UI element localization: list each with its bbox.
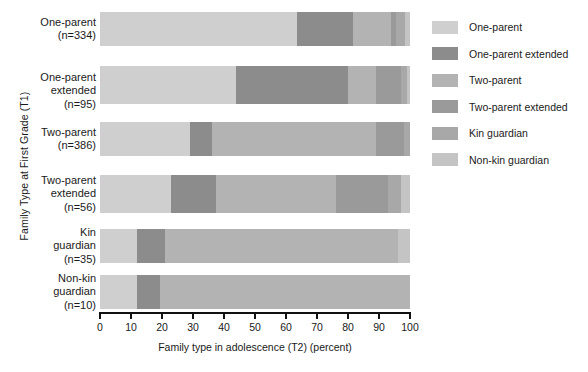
category-label: Kin guardian (n=35) bbox=[18, 226, 96, 266]
plot-area bbox=[100, 0, 410, 310]
x-axis-title: Family type in adolescence (T2) (percent… bbox=[100, 341, 410, 353]
x-axis-tick-label: 90 bbox=[364, 321, 394, 333]
x-axis-tick-label: 40 bbox=[209, 321, 239, 333]
bar-segment bbox=[405, 12, 410, 46]
bar-segment bbox=[100, 229, 137, 263]
bar-segment bbox=[100, 12, 297, 46]
legend-item[interactable]: Kin guardian bbox=[432, 120, 582, 147]
x-axis-tick bbox=[285, 312, 286, 319]
bar-segment bbox=[297, 12, 353, 46]
bar-segment bbox=[348, 66, 376, 104]
bar-row bbox=[100, 275, 410, 309]
x-axis-tick bbox=[254, 312, 255, 319]
legend: One-parent One-parent extendedTwo-parent… bbox=[432, 14, 582, 173]
legend-swatch bbox=[432, 127, 458, 140]
category-label-group: One-parent (n=334)One-parent extended (n… bbox=[18, 0, 96, 310]
bar-segment bbox=[160, 275, 410, 309]
x-axis-tick-label: 30 bbox=[178, 321, 208, 333]
x-axis-line: 0102030405060708090100 bbox=[100, 312, 410, 314]
bar-segment bbox=[376, 66, 401, 104]
category-label: Two-parent extended (n=56) bbox=[18, 174, 96, 214]
legend-swatch bbox=[432, 100, 458, 113]
bar-segment bbox=[137, 229, 165, 263]
bar-row bbox=[100, 175, 410, 213]
legend-swatch bbox=[432, 47, 458, 60]
bar-segment bbox=[398, 229, 410, 263]
legend-label: Non-kin guardian bbox=[469, 154, 549, 166]
x-axis-tick-label: 70 bbox=[302, 321, 332, 333]
x-axis-tick bbox=[99, 312, 100, 319]
legend-item[interactable]: One-parent bbox=[432, 14, 582, 41]
x-axis-tick-label: 10 bbox=[116, 321, 146, 333]
bar-segment bbox=[407, 66, 410, 104]
legend-label: One-parent extended bbox=[469, 48, 568, 60]
x-axis-tick-label: 20 bbox=[147, 321, 177, 333]
legend-item[interactable]: Two-parent bbox=[432, 67, 582, 94]
bar-segment bbox=[353, 12, 392, 46]
x-axis-tick-label: 100 bbox=[395, 321, 425, 333]
legend-label: One-parent bbox=[469, 21, 522, 33]
bar-segment bbox=[190, 122, 212, 156]
x-axis-tick-label: 60 bbox=[271, 321, 301, 333]
bar-segment bbox=[404, 122, 410, 156]
bar-segment bbox=[100, 122, 190, 156]
x-axis-tick bbox=[378, 312, 379, 319]
legend-item[interactable]: One-parent extended bbox=[432, 41, 582, 68]
bar-segment bbox=[236, 66, 348, 104]
category-label: Non-kin guardian (n=10) bbox=[18, 272, 96, 312]
legend-swatch bbox=[432, 21, 458, 34]
x-axis-tick-label: 0 bbox=[85, 321, 115, 333]
bar-segment bbox=[216, 175, 335, 213]
x-axis-tick bbox=[161, 312, 162, 319]
category-label: One-parent extended (n=95) bbox=[18, 71, 96, 111]
category-label: Two-parent (n=386) bbox=[18, 126, 96, 153]
x-axis-tick bbox=[316, 312, 317, 319]
legend-label: Two-parent extended bbox=[469, 101, 568, 113]
legend-swatch bbox=[432, 153, 458, 166]
x-axis-tick bbox=[130, 312, 131, 319]
x-axis-tick-label: 80 bbox=[333, 321, 363, 333]
bar-segment bbox=[171, 175, 216, 213]
bar-segment bbox=[100, 275, 137, 309]
legend-item[interactable]: Non-kin guardian bbox=[432, 147, 582, 174]
stacked-bar-chart: Family Type at First Grade (T1) One-pare… bbox=[0, 0, 588, 372]
bar-segment bbox=[376, 122, 404, 156]
category-label: One-parent (n=334) bbox=[18, 16, 96, 43]
x-axis-tick bbox=[409, 312, 410, 319]
bar-segment bbox=[396, 12, 405, 46]
legend-swatch bbox=[432, 74, 458, 87]
bar-segment bbox=[336, 175, 389, 213]
bar-row bbox=[100, 66, 410, 104]
legend-item[interactable]: Two-parent extended bbox=[432, 94, 582, 121]
bar-row bbox=[100, 12, 410, 46]
bar-segment bbox=[137, 275, 160, 309]
bar-segment bbox=[401, 175, 410, 213]
bar-segment bbox=[388, 175, 400, 213]
bar-segment bbox=[165, 229, 398, 263]
bar-segment bbox=[100, 66, 236, 104]
legend-label: Two-parent bbox=[469, 74, 522, 86]
x-axis-tick bbox=[347, 312, 348, 319]
legend-label: Kin guardian bbox=[469, 127, 528, 139]
bar-segment bbox=[100, 175, 171, 213]
x-axis-tick-label: 50 bbox=[240, 321, 270, 333]
bar-segment bbox=[212, 122, 376, 156]
bar-row bbox=[100, 122, 410, 156]
x-axis-tick bbox=[192, 312, 193, 319]
bar-row bbox=[100, 229, 410, 263]
x-axis-tick bbox=[223, 312, 224, 319]
